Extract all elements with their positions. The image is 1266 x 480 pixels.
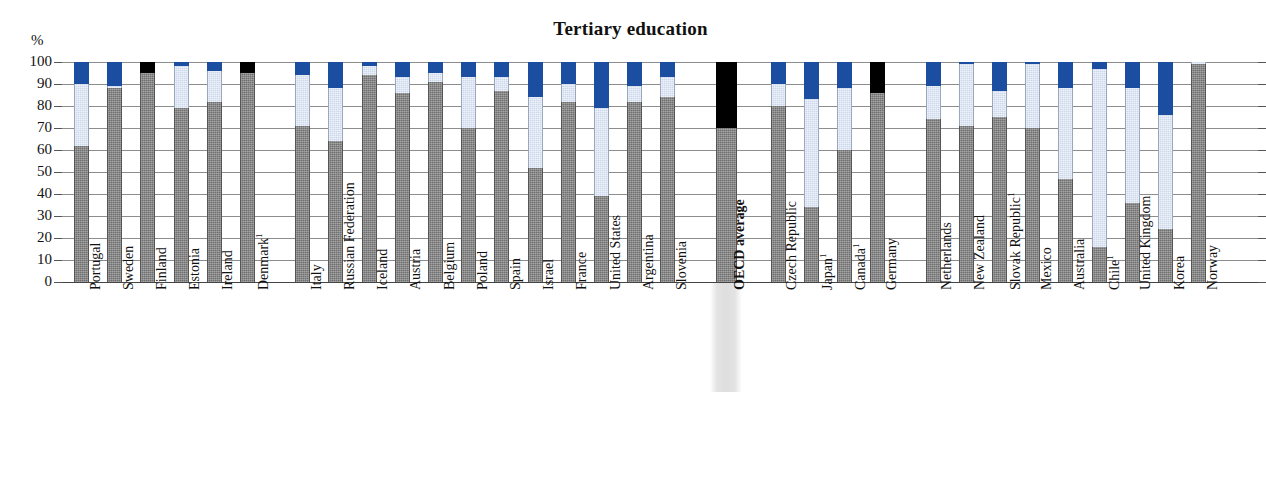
x-axis-label: Poland <box>475 251 491 290</box>
x-axis-label: Italy <box>309 264 325 290</box>
x-axis-label: Slovak Republic1 <box>1006 193 1024 290</box>
x-axis-label: Sweden <box>121 246 137 290</box>
x-axis-label: Norway <box>1205 245 1221 290</box>
x-axis-label: Austria <box>408 249 424 290</box>
x-axis-label: Finland <box>154 247 170 290</box>
x-axis-label: Estonia <box>187 248 203 290</box>
x-axis-label: France <box>574 252 590 290</box>
x-axis-label: Spain <box>508 258 524 290</box>
x-axis-label: Slovenia <box>674 241 690 290</box>
x-axis-label: Netherlands <box>939 222 955 290</box>
x-axis-label: Canada1 <box>851 244 869 290</box>
x-axis-label: Germany <box>884 238 900 290</box>
x-axis-label: Mexico <box>1039 247 1055 290</box>
x-axis-label: Portugal <box>88 243 104 290</box>
x-axis-label: New Zealand <box>972 215 988 290</box>
x-axis-label: Ireland <box>220 250 236 290</box>
x-axis-label: Russian Federation <box>342 182 358 290</box>
x-axis-label: Korea <box>1172 256 1188 290</box>
x-axis-label: United States <box>608 215 624 290</box>
x-axis-label: Belgium <box>442 242 458 290</box>
x-axis-label: Iceland <box>375 249 391 290</box>
x-axis-label: Denmark1 <box>254 233 272 290</box>
x-axis-label: United Kingdom <box>1138 196 1154 291</box>
x-axis-label: OECD average <box>732 199 748 290</box>
x-axis-label: Israel <box>541 259 557 290</box>
x-axis-label: Australia <box>1072 239 1088 290</box>
x-axis-label: Chile1 <box>1105 255 1123 290</box>
x-axis-label: Czech Republic <box>784 201 800 290</box>
x-axis-label: Argentina <box>641 234 657 290</box>
x-axis-label: Japan1 <box>818 254 836 290</box>
